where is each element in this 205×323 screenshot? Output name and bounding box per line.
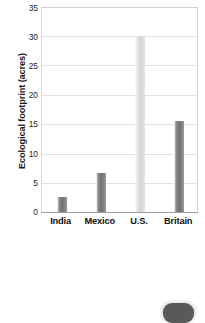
bar-slot-us: [120, 7, 159, 212]
y-tick-0: 0: [4, 208, 38, 216]
bar-us[interactable]: [135, 36, 145, 212]
bar-slot-india: [42, 7, 81, 212]
y-tick-5: 5: [4, 179, 38, 187]
plot-area: [41, 7, 198, 213]
y-axis-tick-labels: 35 30 25 20 15 10 5 0: [0, 0, 38, 316]
bar-mexico[interactable]: [96, 173, 106, 212]
x-axis-line: [41, 212, 198, 213]
bar-slot-britain: [160, 7, 199, 212]
y-tick-25: 25: [4, 62, 38, 70]
y-tick-15: 15: [4, 120, 38, 128]
bar-britain[interactable]: [174, 121, 184, 212]
y-tick-10: 10: [4, 150, 38, 158]
page-corner-mark: [163, 303, 194, 323]
bar-india[interactable]: [57, 197, 67, 212]
x-tick-britain: Britain: [152, 215, 204, 228]
bar-slot-mexico: [81, 7, 120, 212]
y-tick-30: 30: [4, 33, 38, 41]
y-tick-35: 35: [4, 4, 38, 12]
x-axis-tick-labels: India Mexico U.S. Britain: [41, 215, 198, 231]
y-tick-20: 20: [4, 91, 38, 99]
